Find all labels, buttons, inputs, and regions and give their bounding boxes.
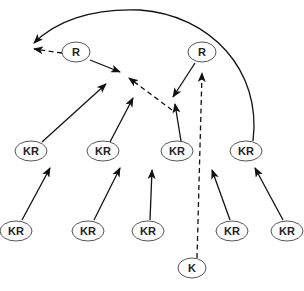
- node-label: KR: [224, 225, 240, 237]
- node-label: KR: [8, 225, 24, 237]
- node-label: K: [188, 262, 196, 274]
- edge-arrow-solid: [173, 63, 195, 97]
- edge-arrow-solid: [255, 168, 283, 220]
- edges-layer: [22, 10, 283, 258]
- node-r: R: [62, 42, 90, 62]
- node-label: R: [72, 46, 80, 58]
- edge-arrow-solid: [42, 84, 106, 142]
- edge-arrow-dashed: [129, 78, 172, 110]
- edge-arrow-dashed: [197, 73, 202, 258]
- node-r: R: [188, 42, 216, 62]
- diagram-canvas: RRKRKRKRKRKRKRKRKRKRK: [0, 0, 304, 291]
- node-kr: KR: [87, 141, 119, 161]
- edge-arrow-solid: [110, 98, 133, 142]
- nodes-layer: RRKRKRKRKRKRKRKRKRKRK: [0, 42, 303, 278]
- edge-arrow-solid: [150, 170, 152, 220]
- node-label: KR: [80, 225, 96, 237]
- node-kr: KR: [15, 141, 47, 161]
- edge-arrow-solid: [212, 170, 230, 220]
- node-k: K: [178, 258, 206, 278]
- node-label: KR: [140, 225, 156, 237]
- node-label: KR: [23, 145, 39, 157]
- node-label: R: [198, 46, 206, 58]
- node-label: KR: [238, 145, 254, 157]
- edge-arrow-solid: [94, 168, 120, 220]
- edge-arrow-solid: [175, 104, 181, 141]
- edge-arrow-solid: [22, 168, 50, 220]
- node-label: KR: [95, 145, 111, 157]
- node-kr: KR: [132, 221, 164, 241]
- node-kr: KR: [0, 221, 32, 241]
- node-label: KR: [169, 145, 185, 157]
- node-kr: KR: [271, 221, 303, 241]
- graph-diagram: RRKRKRKRKRKRKRKRKRKRK: [0, 0, 304, 291]
- edge-arrow-solid: [90, 60, 120, 72]
- node-kr: KR: [72, 221, 104, 241]
- edge-arrow-solid: [34, 10, 254, 141]
- node-label: KR: [279, 225, 295, 237]
- edge-arrow-dashed: [34, 49, 62, 53]
- node-kr: KR: [216, 221, 248, 241]
- node-kr: KR: [230, 141, 262, 161]
- node-kr: KR: [161, 141, 193, 161]
